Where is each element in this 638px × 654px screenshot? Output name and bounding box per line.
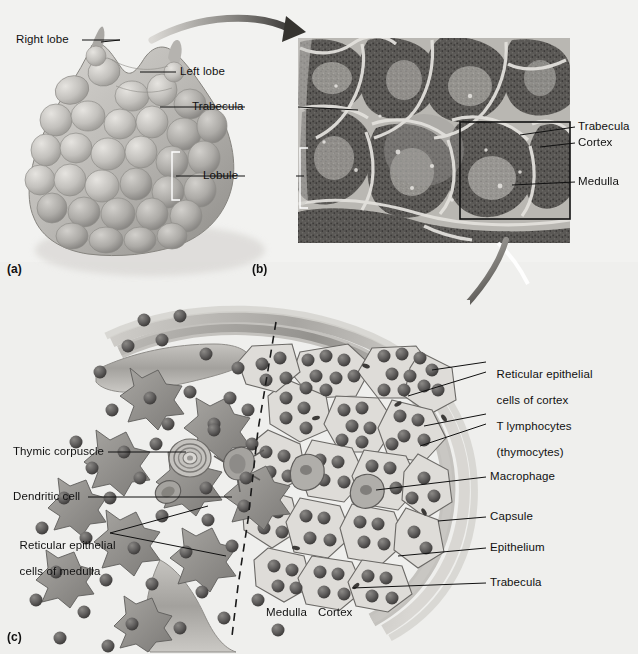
panel-b-id: (b)	[252, 262, 267, 276]
label-left-lobe: Left lobe	[180, 65, 225, 78]
label-capsule: Capsule	[490, 510, 533, 523]
panel-c-id: (c)	[7, 630, 22, 644]
thymic-corpuscle	[169, 439, 211, 477]
label-lobule-shared: Lobule	[203, 169, 238, 182]
label-trabecula-c: Trabecula	[490, 576, 542, 589]
label-cortex-zone: Cortex	[318, 606, 352, 619]
label-epithelium: Epithelium	[490, 541, 545, 554]
label-line-1: T lymphocytes	[496, 420, 571, 432]
label-reticular-epithelial-cells-of-cortex: Reticular epithelial cells of cortex	[490, 355, 593, 407]
label-medulla-zone: Medulla	[266, 606, 307, 619]
label-line-2: cells of medulla	[20, 565, 101, 577]
label-line-2: (thymocytes)	[497, 446, 564, 458]
label-right-lobe: Right lobe	[16, 33, 69, 46]
label-trabecula-b: Trabecula	[578, 120, 630, 133]
label-thymic-corpuscle: Thymic corpuscle	[13, 445, 104, 458]
panel-b-micrograph	[298, 37, 570, 244]
label-line-1: Reticular epithelial	[497, 368, 593, 380]
label-trabecula-shared: Trabecula	[192, 100, 244, 113]
label-reticular-epithelial-cells-of-medulla: Reticular epithelial cells of medulla	[13, 526, 116, 578]
label-macrophage: Macrophage	[490, 470, 555, 483]
label-dendritic-cell: Dendritic cell	[13, 490, 80, 503]
label-line-1: Reticular epithelial	[20, 539, 116, 551]
panel-a-id: (a)	[7, 262, 22, 276]
label-line-2: cells of cortex	[497, 394, 569, 406]
label-t-lymphocytes: T lymphocytes (thymocytes)	[490, 407, 572, 459]
label-cortex-b: Cortex	[578, 136, 612, 149]
label-medulla-b: Medulla	[578, 175, 619, 188]
